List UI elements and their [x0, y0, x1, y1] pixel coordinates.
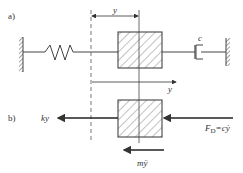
- mass-spring-damper-diagram: a) c y y b) ky FD=cẏ mÿ: [0, 0, 243, 173]
- right-wall: [226, 38, 230, 66]
- spring: [23, 45, 118, 60]
- left-wall: [19, 37, 23, 72]
- panel-a-label: a): [8, 11, 15, 21]
- damper-label: c: [198, 33, 202, 43]
- panel-b-label: b): [8, 113, 16, 123]
- damping-force-label: FD=cẏ: [204, 123, 231, 135]
- spring-force-label: ky: [41, 113, 49, 123]
- mass-block-b: [118, 100, 162, 137]
- inertia-force-label: mÿ: [137, 158, 148, 168]
- displacement-label: y: [112, 5, 117, 15]
- mass-block-a: [118, 32, 162, 68]
- y-axis-label: y: [167, 84, 172, 94]
